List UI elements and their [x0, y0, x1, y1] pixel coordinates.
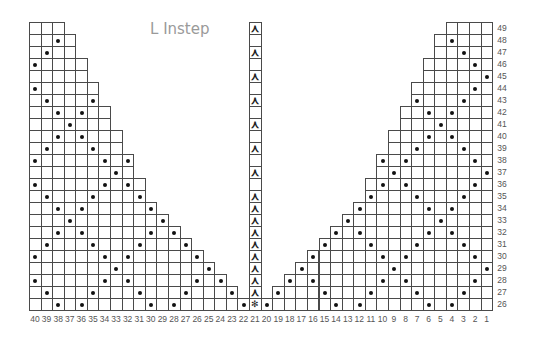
chart-cell: [342, 214, 355, 227]
column-label: 10: [376, 314, 388, 324]
dot-icon: [126, 159, 130, 163]
chart-cell: [469, 178, 482, 191]
chart-cell: [457, 106, 470, 119]
chart-cell: [411, 106, 424, 119]
chart-cell: [481, 118, 494, 131]
chart-cell: [411, 190, 424, 203]
chart-cell: [353, 286, 366, 299]
chart-cell: [249, 154, 262, 167]
chart-cell: [400, 142, 413, 155]
chart-cell: [434, 58, 447, 71]
dot-icon: [439, 219, 443, 223]
decrease-arrow-icon: ⋏: [250, 23, 261, 34]
chart-cell: [469, 106, 482, 119]
chart-cell: [400, 262, 413, 275]
chart-cell: [295, 286, 308, 299]
dot-icon: [184, 291, 188, 295]
dot-icon: [311, 279, 315, 283]
dot-icon: [462, 243, 466, 247]
chart-cell: [446, 202, 459, 215]
chart-cell: [481, 214, 494, 227]
chart-cell: [481, 94, 494, 107]
chart-cell: [64, 34, 77, 47]
dot-icon: [91, 291, 95, 295]
chart-cell: [481, 262, 494, 275]
chart-cell: [446, 178, 459, 191]
chart-cell: [284, 286, 297, 299]
chart-cell: [469, 34, 482, 47]
column-label: 37: [64, 314, 76, 324]
chart-cell: [446, 262, 459, 275]
column-label: 31: [133, 314, 145, 324]
chart-cell: [434, 274, 447, 287]
chart-cell: [481, 154, 494, 167]
dot-icon: [161, 219, 165, 223]
chart-cell: ⋏: [249, 94, 262, 107]
chart-cell: [434, 286, 447, 299]
dot-icon: [323, 243, 327, 247]
chart-cell: [400, 250, 413, 263]
chart-cell: [469, 130, 482, 143]
decrease-arrow-icon: ⋏: [250, 215, 261, 226]
chart-cell: [342, 262, 355, 275]
chart-cell: [168, 226, 181, 239]
chart-cell: [400, 226, 413, 239]
chart-cell: [469, 286, 482, 299]
column-label: 7: [411, 314, 423, 324]
decrease-arrow-icon: ⋏: [250, 203, 261, 214]
dot-icon: [195, 255, 199, 259]
chart-cell: [388, 142, 401, 155]
chart-cell: [434, 262, 447, 275]
chart-cell: [481, 166, 494, 179]
chart-cell: [365, 178, 378, 191]
dot-icon: [149, 303, 153, 307]
chart-cell: [330, 262, 343, 275]
row-label: 46: [497, 59, 506, 69]
chart-cell: [469, 166, 482, 179]
row-label: 43: [497, 95, 506, 105]
chart-cell: [319, 298, 332, 311]
column-label: 26: [191, 314, 203, 324]
chart-cell: [330, 226, 343, 239]
chart-cell: [469, 190, 482, 203]
chart-cell: [423, 298, 436, 311]
dot-icon: [427, 135, 431, 139]
dot-icon: [485, 171, 489, 175]
dot-icon: [427, 231, 431, 235]
dot-icon: [33, 255, 37, 259]
dot-icon: [392, 267, 396, 271]
row-label: 49: [497, 23, 506, 33]
dot-icon: [381, 255, 385, 259]
chart-cell: [145, 202, 158, 215]
column-label: 19: [272, 314, 284, 324]
chart-cell: [446, 46, 459, 59]
chart-cell: [400, 238, 413, 251]
chart-cell: ⋏: [249, 118, 262, 131]
chart-cell: [434, 142, 447, 155]
dot-icon: [323, 291, 327, 295]
chart-cell: [400, 106, 413, 119]
chart-cell: [423, 214, 436, 227]
column-label: 25: [203, 314, 215, 324]
column-label: 33: [110, 314, 122, 324]
dot-icon: [103, 159, 107, 163]
column-label: 18: [284, 314, 296, 324]
chart-cell: [110, 130, 123, 143]
dot-icon: [358, 303, 362, 307]
chart-cell: [87, 82, 100, 95]
column-label: 36: [75, 314, 87, 324]
chart-cell: [423, 166, 436, 179]
chart-cell: [365, 202, 378, 215]
dot-icon: [450, 207, 454, 211]
column-label: 32: [122, 314, 134, 324]
dot-icon: [473, 87, 477, 91]
chart-cell: [400, 274, 413, 287]
dot-icon: [485, 267, 489, 271]
chart-cell: [481, 190, 494, 203]
chart-cell: [423, 130, 436, 143]
chart-cell: [446, 166, 459, 179]
chart-cell: [423, 238, 436, 251]
dot-icon: [450, 303, 454, 307]
chart-cell: [411, 178, 424, 191]
decrease-arrow-icon: ⋏: [250, 167, 261, 178]
